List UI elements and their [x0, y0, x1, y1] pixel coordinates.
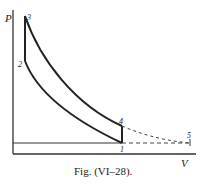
process-3-4 [25, 16, 122, 126]
point-label-2: 2 [18, 60, 22, 69]
p-axis-label: P [4, 12, 12, 24]
figure-caption: Fig. (VI–28). [74, 165, 133, 178]
point-label-5: 5 [187, 131, 191, 140]
pv-diagram-canvas: P V 3 2 4 1 5 Fig. (VI–28). [0, 0, 201, 187]
process-1-2 [25, 61, 122, 143]
dashed-4-5 [122, 126, 190, 143]
v-axis-label: V [181, 157, 189, 169]
point-label-3: 3 [26, 13, 31, 22]
point-label-4: 4 [119, 117, 123, 126]
pv-diagram-figure: P V 3 2 4 1 5 Fig. (VI–28). [0, 0, 201, 187]
point-label-1: 1 [120, 145, 124, 154]
